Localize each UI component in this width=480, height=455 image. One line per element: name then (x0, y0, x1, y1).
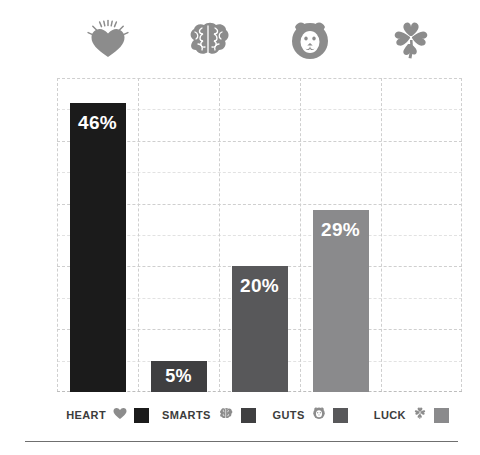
bar-guts[interactable]: 20% (232, 266, 288, 392)
icon-cell-brain (158, 14, 259, 66)
bar-heart[interactable]: 46% (70, 103, 126, 392)
chart-legend: HEART SMARTS (57, 404, 462, 426)
plot-area: 50% 40% 30% 20% 10% 46% 5% 20% (57, 78, 462, 392)
legend-label-smarts: SMARTS (162, 409, 211, 421)
bar-value-luck: 29% (313, 219, 369, 241)
clover-icon (413, 406, 427, 424)
bar-slot-smarts: 5% (138, 78, 219, 392)
bar-smarts[interactable]: 5% (151, 361, 207, 392)
legend-swatch-luck (434, 408, 449, 423)
brain-icon (218, 406, 234, 424)
icon-cell-lion (260, 14, 361, 66)
clover-icon (390, 18, 432, 62)
heart-icon (113, 406, 127, 424)
icon-cell-clover (361, 14, 462, 66)
bar-chart: 50% 40% 30% 20% 10% 46% 5% 20% (0, 0, 480, 455)
bar-value-heart: 46% (70, 112, 126, 134)
bar-slot-heart: 46% (57, 78, 138, 392)
brain-icon (186, 20, 232, 60)
legend-swatch-smarts (241, 408, 256, 423)
lion-icon (289, 18, 331, 62)
legend-item-smarts[interactable]: SMARTS (158, 404, 259, 426)
legend-swatch-guts (333, 408, 348, 423)
bar-luck[interactable]: 29% (313, 210, 369, 392)
legend-item-heart[interactable]: HEART (57, 404, 158, 426)
category-icon-row (57, 14, 462, 66)
legend-swatch-heart (134, 408, 149, 423)
bar-value-smarts: 5% (151, 366, 207, 387)
bar-group: 46% 5% 20% 29% (57, 78, 462, 392)
legend-label-heart: HEART (66, 409, 106, 421)
bar-slot-guts: 20% (219, 78, 300, 392)
footer-divider (25, 441, 458, 442)
legend-item-guts[interactable]: GUTS (260, 404, 361, 426)
bar-value-guts: 20% (232, 275, 288, 297)
legend-item-luck[interactable]: LUCK (361, 404, 462, 426)
icon-cell-heart (57, 14, 158, 66)
lion-icon (312, 406, 326, 424)
legend-label-luck: LUCK (374, 409, 406, 421)
bar-slot-luck: 29% (300, 78, 381, 392)
legend-label-guts: GUTS (273, 409, 305, 421)
heart-icon (86, 18, 130, 62)
